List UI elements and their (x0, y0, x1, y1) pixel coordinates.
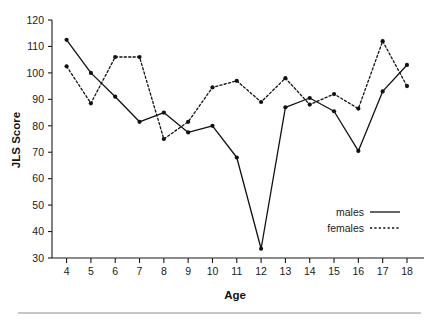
data-point-males-9 (186, 130, 190, 134)
x-tick-label: 4 (64, 265, 70, 277)
data-point-females-13 (283, 76, 287, 80)
data-point-females-10 (210, 85, 214, 89)
data-point-males-10 (210, 124, 214, 128)
data-point-females-6 (113, 55, 117, 59)
data-point-males-4 (64, 38, 68, 42)
legend-label-females: females (327, 222, 364, 234)
data-point-males-18 (405, 63, 409, 67)
data-markers-group (64, 38, 409, 251)
data-point-males-17 (381, 89, 385, 93)
data-point-females-5 (89, 101, 93, 105)
data-point-females-15 (332, 92, 336, 96)
data-point-males-7 (137, 120, 141, 124)
x-tick-label: 18 (401, 265, 413, 277)
y-tick-label: 80 (32, 120, 44, 132)
data-point-females-7 (137, 55, 141, 59)
legend-label-males: males (336, 206, 364, 218)
x-tick-label: 14 (304, 265, 316, 277)
y-tick-label: 100 (26, 67, 44, 79)
x-tick-label: 16 (353, 265, 365, 277)
y-axis-title: JLS Score (10, 112, 22, 168)
x-tick-label: 10 (207, 265, 219, 277)
data-point-males-8 (162, 110, 166, 114)
y-tick-label: 60 (32, 172, 44, 184)
data-point-females-16 (356, 106, 360, 110)
x-tick-label: 6 (112, 265, 118, 277)
data-point-males-11 (235, 155, 239, 159)
data-point-males-6 (113, 95, 117, 99)
data-point-females-11 (235, 79, 239, 83)
data-point-females-12 (259, 100, 263, 104)
data-point-males-14 (308, 96, 312, 100)
x-tick-label: 7 (137, 265, 143, 277)
x-tick-label: 5 (88, 265, 94, 277)
data-point-males-5 (89, 71, 93, 75)
x-tick-label: 9 (185, 265, 191, 277)
x-tick-label: 8 (161, 265, 167, 277)
series-line-females (67, 41, 407, 139)
chart-legend: malesfemales (327, 206, 400, 234)
x-tick-label: 17 (377, 265, 389, 277)
x-tick-label: 12 (255, 265, 267, 277)
data-point-females-18 (405, 84, 409, 88)
y-tick-label: 70 (32, 146, 44, 158)
x-tick-label: 11 (231, 265, 242, 277)
data-point-males-12 (259, 247, 263, 251)
data-point-males-13 (283, 105, 287, 109)
x-tick-label: 13 (280, 265, 292, 277)
data-point-females-4 (64, 64, 68, 68)
data-point-females-17 (381, 39, 385, 43)
chart-figure: 30405060708090100110120 4567891011121314… (0, 0, 439, 320)
data-point-males-15 (332, 109, 336, 113)
y-axis-ticks: 30405060708090100110120 (26, 14, 52, 264)
y-tick-label: 90 (32, 93, 44, 105)
y-tick-label: 50 (32, 199, 44, 211)
y-tick-label: 110 (27, 40, 44, 52)
y-tick-label: 120 (26, 14, 44, 26)
line-chart: 30405060708090100110120 4567891011121314… (0, 0, 439, 320)
data-point-females-9 (186, 120, 190, 124)
x-axis-title: Age (224, 289, 246, 301)
x-axis-ticks: 456789101112131415161718 (64, 258, 413, 277)
data-point-females-14 (308, 103, 312, 107)
y-tick-label: 40 (32, 225, 44, 237)
data-point-males-16 (356, 149, 360, 153)
data-point-females-8 (162, 137, 166, 141)
x-tick-label: 15 (328, 265, 340, 277)
y-tick-label: 30 (32, 252, 44, 264)
